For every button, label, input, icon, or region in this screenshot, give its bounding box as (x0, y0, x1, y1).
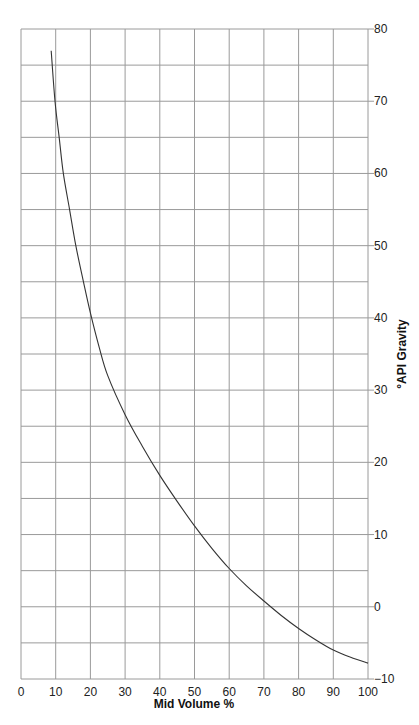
y-tick-label: 20 (374, 455, 388, 469)
y-tick-label: 70 (374, 94, 388, 108)
y-tick-label: 10 (374, 528, 388, 542)
x-tick-label: 80 (292, 685, 306, 699)
y-tick-label: 50 (374, 239, 388, 253)
chart: 0102030405060708090100 −1001020304050607… (0, 0, 419, 725)
y-tick-label: 60 (374, 166, 388, 180)
x-tick-label: 0 (18, 685, 25, 699)
x-axis-title: Mid Volume % (154, 697, 235, 711)
x-tick-label: 10 (49, 685, 63, 699)
api-gravity-curve (51, 51, 368, 663)
y-axis-title: °API Gravity (395, 319, 409, 389)
x-tick-label: 100 (358, 685, 378, 699)
y-tick-label: 80 (374, 22, 388, 36)
data-series-line (51, 51, 368, 663)
y-tick-label: 0 (374, 600, 381, 614)
y-axis-tick-labels: −1001020304050607080 (374, 22, 395, 686)
x-tick-label: 70 (257, 685, 271, 699)
y-tick-label: 30 (374, 383, 388, 397)
y-tick-label: −10 (374, 672, 395, 686)
x-tick-label: 90 (327, 685, 341, 699)
grid-lines (21, 29, 374, 679)
x-tick-label: 20 (84, 685, 98, 699)
y-tick-label: 40 (374, 311, 388, 325)
x-tick-label: 30 (118, 685, 132, 699)
